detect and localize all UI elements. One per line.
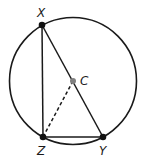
point-x [39,22,46,29]
segment-zc [43,81,73,137]
segment-xz [42,25,43,137]
label-z: Z [36,144,46,158]
point-c [70,78,76,84]
label-x: X [36,6,46,20]
point-y [100,134,107,141]
circle-diagram: XZYC [0,0,143,164]
label-c: C [80,74,89,88]
point-z [40,134,47,141]
diagram-canvas: XZYC [0,0,143,164]
label-y: Y [99,144,108,158]
